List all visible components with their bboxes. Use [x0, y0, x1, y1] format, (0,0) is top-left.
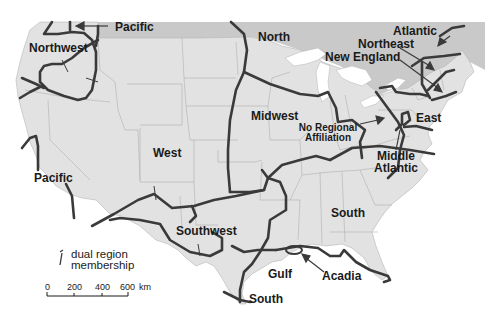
- label-atlantic-north: Atlantic: [393, 25, 437, 37]
- label-pacific-north: Pacific: [115, 21, 154, 33]
- scale-unit: km: [139, 282, 151, 292]
- label-acadia: Acadia: [322, 270, 361, 282]
- label-east: East: [416, 112, 441, 124]
- label-northwest: Northwest: [29, 42, 88, 54]
- label-no-regional-line2: Affiliation: [298, 133, 358, 143]
- dual-region-legend-icon: [60, 250, 63, 265]
- label-southwest: Southwest: [176, 225, 237, 237]
- label-new-england: New England: [325, 51, 400, 63]
- label-north: North: [258, 31, 290, 43]
- legend-label: dual region membership: [71, 249, 134, 271]
- label-pacific-south: Pacific: [34, 172, 73, 184]
- scale-tick-400: 400: [95, 282, 110, 292]
- label-south-interior: South: [331, 207, 365, 219]
- scale-tick-600: 600: [120, 282, 135, 292]
- label-midwest: Midwest: [251, 110, 298, 122]
- label-west: West: [153, 147, 181, 159]
- scale-tick-200: 200: [67, 282, 82, 292]
- label-northeast: Northeast: [358, 38, 414, 50]
- label-no-regional-affiliation: No Regional Affiliation: [298, 123, 358, 143]
- label-middle-atlantic-line2: Atlantic: [370, 162, 422, 174]
- legend-line2: membership: [71, 260, 134, 271]
- label-south-bottom: South: [249, 293, 283, 305]
- label-gulf: Gulf: [268, 268, 292, 280]
- label-middle-atlantic: Middle Atlantic: [370, 150, 422, 174]
- scale-tick-0: 0: [45, 282, 50, 292]
- scale-bar: [47, 292, 128, 296]
